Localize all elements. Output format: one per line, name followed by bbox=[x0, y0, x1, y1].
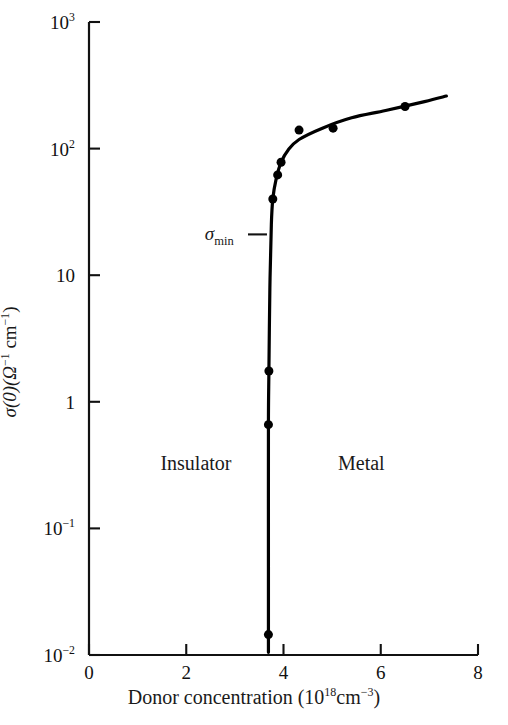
x-axis-title-main: Donor concentration (10 bbox=[128, 686, 325, 708]
y-tick-mantissa: 10 bbox=[56, 265, 75, 286]
data-point-marker bbox=[273, 170, 282, 179]
y-tick-marks bbox=[89, 22, 100, 655]
y-axis-title-close: ) bbox=[0, 307, 20, 313]
y-tick-exponent: 2 bbox=[69, 138, 75, 151]
y-tick-exponent: −2 bbox=[62, 644, 75, 657]
x-axis-title-close: ) bbox=[374, 686, 381, 708]
data-point-marker bbox=[264, 630, 273, 639]
y-tick-mantissa: 10 bbox=[43, 645, 62, 666]
data-point-marker bbox=[401, 102, 410, 111]
y-tick-label: 103 bbox=[0, 13, 75, 32]
metal-region-label: Metal bbox=[338, 451, 385, 474]
x-axis-title-exp2: −3 bbox=[361, 685, 374, 699]
x-axis-title-exp1: 18 bbox=[324, 685, 336, 699]
sigma-min-subscript: min bbox=[214, 234, 234, 248]
chart-canvas bbox=[0, 0, 508, 725]
data-point-marker bbox=[268, 194, 277, 203]
insulator-region-label: Insulator bbox=[160, 451, 231, 474]
data-point-marker bbox=[277, 158, 286, 167]
x-tick-label: 8 bbox=[473, 663, 483, 682]
y-tick-exponent: −1 bbox=[62, 518, 75, 531]
y-tick-label: 102 bbox=[0, 139, 75, 158]
x-axis-title-cm: cm bbox=[336, 686, 360, 708]
y-axis-title-sigma: σ(0)( bbox=[0, 380, 20, 418]
sigma-min-symbol: σ bbox=[205, 223, 214, 244]
y-tick-exponent: 3 bbox=[69, 11, 75, 24]
x-tick-label: 6 bbox=[376, 663, 386, 682]
x-axis-title: Donor concentration (1018cm−3) bbox=[0, 686, 508, 709]
y-tick-mantissa: 1 bbox=[66, 391, 76, 412]
data-curve bbox=[268, 96, 446, 652]
y-tick-label: 10−2 bbox=[0, 646, 75, 665]
data-point-marker bbox=[264, 420, 273, 429]
y-axis-title-omega: Ω bbox=[0, 366, 20, 380]
y-tick-mantissa: 10 bbox=[43, 518, 62, 539]
y-tick-label: 10−1 bbox=[0, 519, 75, 538]
y-axis-title-exp1: −1 bbox=[0, 353, 12, 366]
y-tick-label: 10 bbox=[0, 266, 75, 285]
y-axis-title-exp2: −1 bbox=[0, 313, 12, 326]
x-tick-label: 4 bbox=[279, 663, 289, 682]
y-tick-mantissa: 10 bbox=[50, 12, 69, 33]
y-axis-title: σ(0)(Ω−1 cm−1) bbox=[0, 307, 21, 418]
data-point-marker bbox=[264, 367, 273, 376]
data-point-markers bbox=[264, 102, 410, 639]
x-tick-marks bbox=[89, 644, 478, 655]
y-axis-title-cm: cm bbox=[0, 325, 20, 353]
x-tick-label: 2 bbox=[182, 663, 192, 682]
data-point-marker bbox=[295, 126, 304, 135]
sigma-min-annotation: σmin bbox=[205, 223, 234, 245]
figure-container: 10310210110−110−2 02468 σ(0)(Ω−1 cm−1) D… bbox=[0, 0, 508, 725]
data-point-marker bbox=[329, 124, 338, 133]
axes bbox=[89, 22, 478, 655]
y-tick-mantissa: 10 bbox=[50, 138, 69, 159]
x-tick-label: 0 bbox=[84, 663, 94, 682]
